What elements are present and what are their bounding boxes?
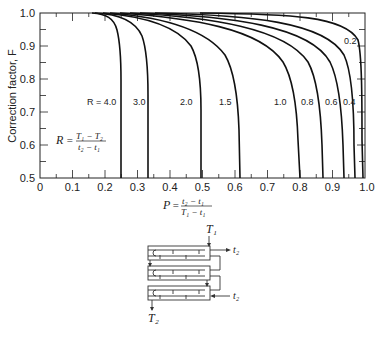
svg-text:0.2: 0.2 — [344, 36, 357, 46]
svg-text:3.0: 3.0 — [133, 97, 146, 107]
p-definition: P = t₂ − t₁ T₁ − t₁ — [162, 196, 212, 217]
svg-text:0.9: 0.9 — [20, 40, 35, 52]
svg-text:T₁ − T₂: T₁ − T₂ — [76, 131, 103, 141]
chart-figure: 0 0.1 0.2 0.3 0.4 0.5 0.6 0.7 0.8 0.9 1.… — [0, 0, 381, 341]
svg-text:R = 4.0: R = 4.0 — [87, 97, 116, 107]
svg-text:0.8: 0.8 — [292, 181, 307, 193]
svg-text:0.1: 0.1 — [65, 181, 80, 193]
svg-text:T₁: T₁ — [206, 222, 217, 236]
svg-text:T₂: T₂ — [148, 311, 159, 325]
curve-r-1-0 — [120, 13, 300, 178]
svg-text:0.2: 0.2 — [97, 181, 112, 193]
svg-text:1.0: 1.0 — [359, 181, 374, 193]
curve-r-0-6 — [140, 13, 344, 178]
curve-r-1-5 — [110, 13, 240, 178]
curves — [92, 13, 363, 178]
svg-text:0.7: 0.7 — [260, 181, 275, 193]
svg-text:0.8: 0.8 — [301, 97, 314, 107]
svg-text:T₁ − t₁: T₁ − t₁ — [181, 207, 205, 217]
plot-frame — [40, 13, 365, 178]
exchanger-diagram: T₁ t₂ — [148, 222, 240, 325]
x-tick-labels: 0 0.1 0.2 0.3 0.4 0.5 0.6 0.7 0.8 0.9 1.… — [37, 181, 375, 193]
svg-text:0.8: 0.8 — [20, 73, 35, 85]
svg-text:P: P — [162, 198, 171, 212]
svg-text:0.4: 0.4 — [162, 181, 177, 193]
svg-text:t₂: t₂ — [233, 244, 240, 255]
svg-text:0.4: 0.4 — [343, 97, 356, 107]
svg-text:0.9: 0.9 — [325, 181, 340, 193]
x-ticks — [56, 13, 349, 178]
svg-text:0: 0 — [37, 181, 43, 193]
svg-text:0.6: 0.6 — [20, 139, 35, 151]
svg-text:2.0: 2.0 — [180, 97, 193, 107]
svg-text:=: = — [172, 199, 179, 211]
svg-text:t₂ − t₁: t₂ − t₁ — [182, 196, 204, 206]
curve-r-2-0 — [103, 13, 201, 178]
r-definition: R = T₁ − T₂ t₂ − t₁ — [55, 131, 106, 152]
svg-text:0.6: 0.6 — [227, 181, 242, 193]
svg-text:0.7: 0.7 — [20, 106, 35, 118]
svg-text:1.5: 1.5 — [219, 97, 232, 107]
svg-text:0.6: 0.6 — [325, 97, 338, 107]
y-axis-label: Correction factor, F — [6, 49, 18, 143]
y-tick-labels: 0.5 0.6 0.7 0.8 0.9 1.0 — [20, 7, 35, 184]
curve-r-0-4 — [155, 13, 355, 178]
svg-text:=: = — [66, 134, 73, 146]
svg-text:0.5: 0.5 — [20, 172, 35, 184]
svg-text:t₂: t₂ — [233, 290, 240, 301]
curve-r-4-0 — [92, 13, 121, 178]
svg-text:0.3: 0.3 — [130, 181, 145, 193]
svg-text:R: R — [55, 133, 64, 147]
svg-text:t₂ − t₁: t₂ − t₁ — [78, 142, 100, 152]
svg-text:0.5: 0.5 — [195, 181, 210, 193]
svg-text:1.0: 1.0 — [20, 7, 35, 19]
svg-text:1.0: 1.0 — [274, 97, 287, 107]
